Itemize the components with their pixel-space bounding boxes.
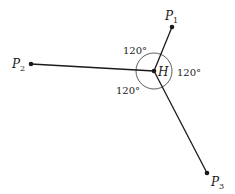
label-p1: P1 <box>164 9 178 25</box>
label-h: H <box>157 65 169 79</box>
label-p2: P2 <box>11 57 25 73</box>
point-h <box>152 69 157 74</box>
fermat-point-diagram: P1 P2 P3 H 120° 120° 120° <box>0 0 235 194</box>
angle-label-right: 120° <box>177 67 201 78</box>
label-p3: P3 <box>210 175 224 191</box>
angle-label-top: 120° <box>123 45 147 56</box>
point-p3 <box>205 171 210 176</box>
point-p2 <box>29 62 34 67</box>
point-p1 <box>170 25 175 30</box>
angle-label-bottom: 120° <box>116 85 140 96</box>
segment-h-p3 <box>154 71 207 173</box>
segment-h-p2 <box>31 64 154 71</box>
